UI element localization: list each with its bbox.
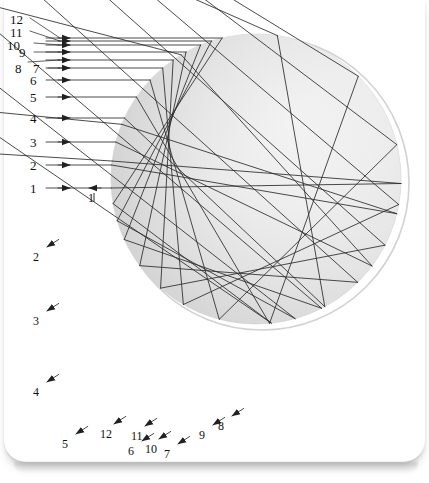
exit-ray-label-8: 8 bbox=[218, 420, 224, 432]
exit-ray-label-12: 12 bbox=[100, 428, 112, 440]
exit-arrowhead-3 bbox=[47, 303, 59, 311]
incoming-ray-label-2: 2 bbox=[30, 159, 37, 172]
exit-ray-label-10: 10 bbox=[145, 443, 157, 455]
exit-ray-label-9: 9 bbox=[199, 429, 205, 441]
exit-ray-label-7: 7 bbox=[164, 448, 170, 460]
ray-diagram-stage: 123456789101112 123456789101112 bbox=[0, 0, 429, 483]
incoming-ray-label-3: 3 bbox=[30, 136, 37, 149]
exit-ray-1 bbox=[0, 152, 112, 161]
incoming-ray-label-8: 8 bbox=[15, 62, 22, 75]
figure-root: 123456789101112 123456789101112 bbox=[0, 0, 429, 483]
sphere-group bbox=[111, 34, 409, 330]
incoming-ray-label-11: 11 bbox=[10, 26, 23, 39]
exit-arrowhead-8 bbox=[232, 408, 244, 416]
exit-ray-label-4: 4 bbox=[33, 386, 39, 398]
exit-arrowhead-12 bbox=[114, 416, 126, 424]
incoming-ray-label-12: 12 bbox=[10, 13, 23, 26]
incoming-ray-label-10: 10 bbox=[7, 39, 20, 52]
exit-arrowhead-11 bbox=[145, 418, 157, 426]
exit-ray-label-5: 5 bbox=[62, 438, 68, 450]
incoming-ray-label-1: 1 bbox=[30, 182, 37, 195]
exit-arrowhead-2 bbox=[47, 239, 59, 247]
exit-ray-4 bbox=[127, 0, 277, 36]
exit-arrowhead-7 bbox=[178, 436, 190, 444]
ray-diagram-svg bbox=[0, 0, 429, 483]
exit-ray-3 bbox=[0, 0, 181, 55]
exit-ray-label-3: 3 bbox=[33, 315, 39, 327]
incoming-ray-label-4: 4 bbox=[30, 112, 37, 125]
exit-arrowhead-5 bbox=[76, 426, 88, 434]
incoming-ray-label-7: 7 bbox=[33, 62, 40, 75]
exit-ray-label-2: 2 bbox=[33, 251, 39, 263]
exit-ray-label-6: 6 bbox=[128, 445, 134, 457]
incoming-ray-label-5: 5 bbox=[30, 91, 37, 104]
exit-arrowhead-6 bbox=[142, 433, 154, 441]
exit-ray-label-11: 11 bbox=[131, 430, 143, 442]
leader-line-11 bbox=[30, 31, 60, 41]
exit-arrowhead-4 bbox=[47, 374, 59, 382]
exit-ray-label-1: 1 bbox=[88, 192, 94, 204]
exit-arrowhead-10 bbox=[159, 431, 171, 439]
leader-line-12 bbox=[30, 18, 60, 38]
